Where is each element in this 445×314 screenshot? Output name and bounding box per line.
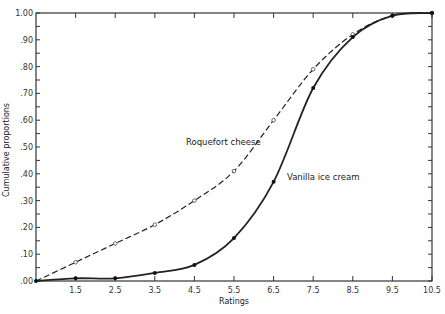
y-tick-label: .50 (20, 143, 33, 152)
vanilla-data-point (153, 271, 157, 275)
y-tick-label: .20 (20, 223, 33, 232)
y-tick-label: .60 (20, 116, 33, 125)
vanilla-data-point (430, 11, 434, 15)
x-tick-label: 6.5 (267, 286, 280, 295)
y-tick-label: .30 (20, 197, 33, 206)
roquefort-data-point (272, 118, 276, 122)
vanilla-data-point (351, 35, 355, 39)
roquefort-data-point (113, 242, 117, 246)
x-tick-label: 4.5 (188, 286, 201, 295)
y-tick-label: .40 (20, 170, 33, 179)
x-tick-label: 7.5 (307, 286, 320, 295)
y-tick-label: .00 (20, 277, 33, 286)
axes: .00.10.20.30.40.50.60.70.80.901.001.52.5… (15, 9, 441, 295)
x-tick-label: 5.5 (228, 286, 241, 295)
roquefort-data-point (311, 67, 315, 71)
series-group (34, 11, 434, 283)
x-tick-label: 9.5 (386, 286, 399, 295)
vanilla-data-point (192, 263, 196, 267)
vanilla-data-point (113, 276, 117, 280)
roquefort-data-point (74, 260, 78, 264)
x-tick-label: 3.5 (148, 286, 161, 295)
y-tick-label: .90 (20, 36, 33, 45)
roquefort-data-point (153, 223, 157, 227)
x-tick-label: 8.5 (346, 286, 359, 295)
y-tick-label: .80 (20, 63, 33, 72)
vanilla-label: Vanilla ice cream (287, 172, 359, 182)
y-tick-label: .70 (20, 89, 33, 98)
labels-group: RatingsCumulative proportionsRoquefort c… (2, 103, 359, 306)
x-tick-label: 10.5 (423, 286, 441, 295)
x-axis-title: Ratings (219, 297, 249, 306)
roquefort-data-point (193, 199, 197, 203)
roquefort-curve (36, 13, 432, 281)
vanilla-data-point (390, 14, 394, 18)
vanilla-data-point (74, 276, 78, 280)
x-tick-label: 1.5 (69, 286, 82, 295)
y-tick-label: .10 (20, 250, 33, 259)
x-tick-label: 2.5 (109, 286, 122, 295)
y-tick-label: 1.00 (15, 9, 33, 18)
vanilla-data-point (311, 86, 315, 90)
cumulative-proportions-chart: .00.10.20.30.40.50.60.70.80.901.001.52.5… (0, 0, 445, 314)
y-axis-title: Cumulative proportions (2, 103, 11, 197)
roquefort-label: Roquefort cheese (186, 137, 261, 147)
plot-frame (36, 13, 432, 281)
origin-point (34, 279, 38, 283)
vanilla-data-point (272, 180, 276, 184)
roquefort-data-point (232, 169, 236, 173)
vanilla-data-point (232, 236, 236, 240)
